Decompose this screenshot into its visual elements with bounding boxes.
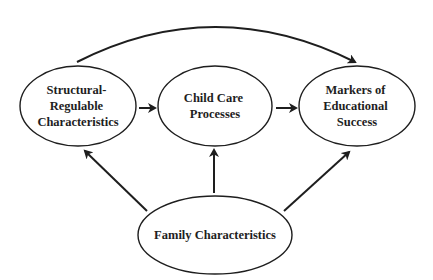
node-child-care-processes: Child Care Processes: [158, 66, 272, 146]
label-line: Child Care: [184, 91, 244, 105]
path-diagram: Structural- Regulable Characteristics Ch…: [0, 0, 433, 280]
label-line: Family Characteristics: [154, 228, 276, 242]
label-line: Structural-: [47, 83, 107, 97]
arrow-family-to-markers: [284, 152, 349, 211]
node-family-characteristics: Family Characteristics: [138, 196, 292, 274]
label-line: Processes: [190, 107, 241, 121]
label-line: Success: [337, 115, 377, 129]
arrow-structural-to-markers: [77, 27, 355, 62]
node-markers-of-educational-success: Markers of Educational Success: [299, 66, 415, 146]
label-line: Educational: [323, 99, 388, 113]
node-ellipse: [158, 66, 272, 146]
label-line: Markers of: [325, 83, 386, 97]
label-line: Characteristics: [37, 115, 118, 129]
node-structural-regulable-characteristics: Structural- Regulable Characteristics: [20, 66, 136, 146]
label-line: Regulable: [50, 99, 104, 113]
node-label: Family Characteristics: [154, 228, 276, 242]
arrow-family-to-structural: [85, 151, 147, 211]
